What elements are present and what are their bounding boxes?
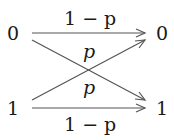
output-1-label: 1 [156, 97, 168, 119]
output-0-label: 0 [156, 22, 168, 44]
edge-1-to-0-label: p [83, 40, 95, 62]
edge-1-to-1-arrow [32, 104, 145, 112]
channel-diagram: 0 1 0 1 1 − p p p 1 − p [0, 0, 174, 140]
edge-0-to-0-label: 1 − p [64, 7, 116, 29]
input-1-label: 1 [7, 97, 19, 119]
input-0-label: 0 [7, 22, 19, 44]
edge-1-to-1-label: 1 − p [64, 113, 116, 135]
edge-0-to-1-label: p [83, 76, 95, 98]
edge-0-to-0-arrow [32, 29, 145, 37]
